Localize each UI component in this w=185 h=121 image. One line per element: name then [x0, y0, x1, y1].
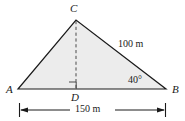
vertex-label-b: B — [172, 84, 179, 95]
base-length-label-ab: 150 m — [75, 104, 100, 114]
triangle-shape — [18, 20, 166, 89]
vertex-label-c: C — [70, 3, 77, 14]
angle-label-b: 40° — [128, 75, 142, 85]
side-length-label-cb: 100 m — [118, 39, 143, 49]
triangle-figure: C A B D 100 m 40° 150 m — [0, 0, 185, 121]
arrowhead-left-icon — [20, 107, 28, 112]
vertex-label-a: A — [6, 84, 13, 95]
arrowhead-right-icon — [157, 107, 165, 112]
vertex-label-d: D — [71, 92, 79, 103]
